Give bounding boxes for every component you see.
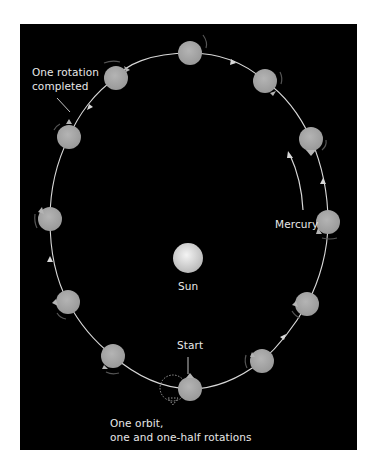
rotation-label-line2: completed [32,79,99,93]
mercury-position-left-upper [54,119,81,149]
arrow-icon [47,256,53,262]
mercury-position-bottom-left [101,344,125,374]
arrow-icon [320,178,326,184]
sun-label: Sun [178,279,198,293]
mercury-direction-arrow [287,151,303,210]
orbit-label-line2: one and one-half rotations [110,430,252,444]
mercury-position-left-mid [35,207,62,231]
mercury-position-upper-left [104,61,130,90]
orbit-direction-arrows [47,59,326,340]
mercury-position-right-low [292,292,319,318]
orbit-label-line1: One orbit, [110,416,252,430]
rotation-label-line1: One rotation [32,65,99,79]
mercury-position-upper-right [253,69,282,96]
rotation-completed-label: One rotation completed [32,65,99,93]
sun [173,243,203,273]
mercury-position-top [178,35,207,65]
start-label: Start [177,338,203,352]
mercury-position-right-upper [299,127,326,156]
mercury-position-start [178,373,202,401]
one-orbit-label: One orbit, one and one-half rotations [110,416,252,444]
rotation-leader-line [57,98,70,112]
mercury-label: Mercury [275,217,318,231]
